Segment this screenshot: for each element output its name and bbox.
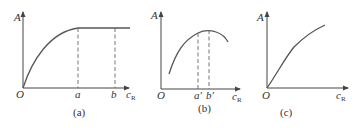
x-axis-label: cR bbox=[336, 89, 346, 103]
curve-c bbox=[267, 25, 325, 88]
x-axis-label: cR bbox=[126, 88, 136, 102]
y-axis-label: A bbox=[13, 11, 21, 23]
marker-label-b: b bbox=[111, 88, 117, 100]
caption-c: (c) bbox=[280, 106, 293, 119]
y-axis-label: A bbox=[256, 11, 264, 23]
diagram-canvas: A O a b cR (a) A O a' b' cR (b) A O cR (… bbox=[0, 0, 357, 128]
marker-label-b-prime: b' bbox=[206, 89, 215, 101]
origin-label: O bbox=[16, 88, 24, 100]
y-axis-label: A bbox=[150, 9, 158, 21]
panel-a: A O a b cR (a) bbox=[13, 11, 136, 119]
caption-a: (a) bbox=[73, 106, 86, 119]
curve-a bbox=[23, 28, 130, 88]
marker-label-a-prime: a' bbox=[194, 89, 203, 101]
panel-b: A O a' b' cR (b) bbox=[150, 9, 242, 115]
curve-b bbox=[169, 31, 228, 74]
origin-label: O bbox=[157, 89, 165, 101]
caption-b: (b) bbox=[198, 102, 211, 115]
x-axis-label: cR bbox=[232, 90, 242, 104]
origin-label: O bbox=[262, 89, 270, 101]
panel-c: A O cR (c) bbox=[256, 11, 348, 119]
marker-label-a: a bbox=[75, 88, 81, 100]
